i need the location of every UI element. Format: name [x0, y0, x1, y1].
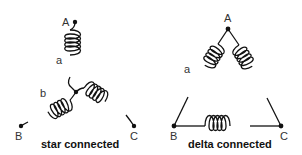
star-terminal-b-dot: [19, 124, 23, 128]
delta-label-b: B: [170, 130, 177, 142]
star-coil-b: [21, 92, 76, 126]
star-coil-a: [65, 22, 81, 92]
delta-diagram: A B C a delta connected: [170, 12, 288, 150]
star-coil-label-b: b: [40, 87, 46, 99]
star-label-c: C: [130, 130, 138, 142]
star-label-b: B: [15, 130, 22, 142]
star-coil-label-a: a: [56, 54, 63, 66]
delta-coil-c: [174, 116, 281, 131]
delta-coil-a: [174, 29, 228, 126]
star-label-a: A: [62, 16, 70, 28]
star-caption: star connected: [41, 138, 119, 150]
star-coil-c: [76, 80, 134, 126]
delta-terminal-a-dot: [226, 27, 231, 32]
delta-terminal-b-dot: [172, 124, 177, 129]
star-diagram: A B C a b star connected: [15, 16, 138, 150]
delta-coil-label-a: a: [184, 63, 191, 75]
delta-label-a: A: [224, 12, 232, 24]
star-center-dot: [74, 90, 78, 94]
star-terminal-a-dot: [73, 20, 77, 24]
winding-diagrams: A B C a b star connected: [0, 0, 302, 155]
delta-terminal-c-dot: [279, 124, 284, 129]
delta-caption: delta connected: [188, 138, 272, 150]
star-terminal-c-dot: [132, 124, 136, 128]
delta-label-c: C: [280, 130, 288, 142]
delta-coil-b: [228, 29, 281, 126]
